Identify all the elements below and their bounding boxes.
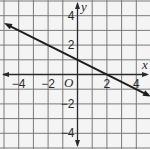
y-tick-label: −2 xyxy=(61,97,75,111)
y-tick-label: −4 xyxy=(61,126,75,140)
origin-label: O xyxy=(64,75,74,90)
x-axis-label: x xyxy=(141,57,148,72)
x-tick-label: −2 xyxy=(41,77,55,91)
y-axis-label: y xyxy=(79,0,87,14)
y-tick-label: 2 xyxy=(68,38,75,52)
x-tick-label: −4 xyxy=(12,77,26,91)
x-tick-label: 2 xyxy=(104,77,111,91)
coordinate-graph: −4−22442−2−4 x y O xyxy=(0,0,150,149)
y-tick-label: 4 xyxy=(68,9,75,23)
